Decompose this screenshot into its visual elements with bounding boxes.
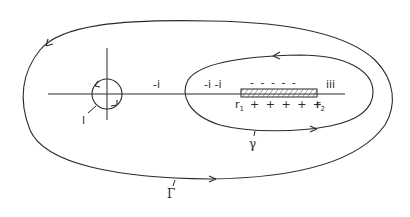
small-circle-arrow-bottom — [111, 100, 117, 106]
inner-contour-label: γ — [249, 137, 256, 151]
gamma-leader — [254, 131, 255, 136]
hatched-segment — [241, 89, 317, 97]
label-iii: iii — [326, 78, 335, 91]
label-r2: r2 — [316, 98, 325, 113]
outer-contour-label: Γ — [167, 187, 175, 201]
small-circle-arrow-top — [95, 81, 100, 87]
small-circle-leader — [88, 106, 96, 113]
label-minus-signs: - - - - - — [250, 76, 297, 89]
label-minus-i-left: -i — [153, 78, 160, 91]
label-r1: r1 — [235, 98, 244, 113]
outer-gamma-leader — [173, 180, 175, 186]
contour-diagram: l -i -i -i - - - - - + + + + + iii r1 r2… — [0, 0, 410, 217]
small-circle-label: l — [82, 114, 85, 127]
label-plus-signs: + + + + + — [250, 98, 324, 111]
label-minus-i-inside: -i -i — [204, 78, 222, 91]
outer-contour-gamma — [23, 21, 392, 179]
